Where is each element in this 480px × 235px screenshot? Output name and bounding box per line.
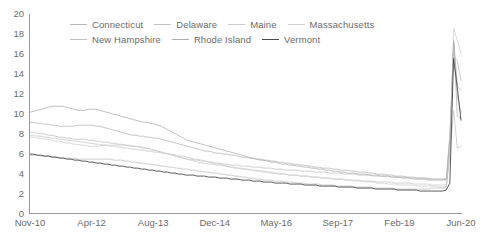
y-tick-label: 10 [2,108,24,119]
series-line-vermont [30,58,461,191]
x-tick-label: May-16 [246,217,306,228]
series-lines [30,28,461,191]
y-tick-label: 2 [2,188,24,199]
y-tick-label: 8 [2,128,24,139]
y-tick-label: 14 [2,68,24,79]
x-tick-label: Jun-20 [431,217,480,228]
x-tick-label: Nov-10 [0,217,60,228]
x-tick-label: Sep-17 [308,217,368,228]
y-tick-label: 16 [2,48,24,59]
series-line-maine [30,110,461,185]
x-tick-label: Aug-13 [123,217,183,228]
x-tick-label: Apr-12 [62,217,122,228]
y-tick-label: 6 [2,148,24,159]
x-tick-label: Feb-19 [369,217,429,228]
y-tick-label: 4 [2,168,24,179]
series-line-delaware [30,56,461,179]
series-line-massachusetts [30,28,461,187]
y-tick-label: 12 [2,88,24,99]
y-tick-label: 20 [2,8,24,19]
x-tick-label: Dec-14 [185,217,245,228]
series-line-new-hampshire [30,43,461,189]
y-tick-label: 18 [2,28,24,39]
